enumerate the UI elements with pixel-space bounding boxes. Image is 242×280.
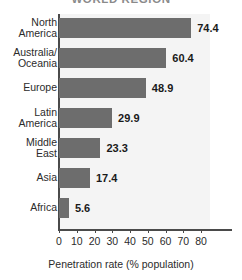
bar-row: 29.9 (59, 108, 234, 128)
x-axis-tick (130, 229, 131, 233)
x-axis-tick (166, 229, 167, 233)
bar-row: 74.4 (59, 18, 234, 38)
x-axis-title: Penetration rate (% population) (0, 258, 242, 270)
bar (59, 198, 69, 218)
category-label: Europe (23, 82, 57, 94)
x-axis-tick (95, 229, 96, 233)
bar (59, 18, 191, 38)
bar-value-label: 60.4 (172, 52, 193, 64)
bar-value-label: 74.4 (197, 22, 218, 34)
bar-row: 5.6 (59, 198, 234, 218)
category-label: Asia (37, 172, 57, 184)
chart-title: WORLD REGION (0, 0, 242, 5)
category-label: Middle East (26, 137, 57, 160)
x-axis-tick-label: 10 (71, 235, 83, 247)
x-axis-tick-label: 0 (56, 235, 62, 247)
bar-chart: WORLD REGION 74.460.448.929.923.317.45.6… (0, 0, 242, 280)
bar-row: 23.3 (59, 138, 234, 158)
bar-value-label: 23.3 (106, 142, 127, 154)
bar (59, 78, 146, 98)
x-axis-tick-label: 50 (142, 235, 154, 247)
bar (59, 48, 166, 68)
bar-value-label: 48.9 (152, 82, 173, 94)
x-axis-tick-label: 40 (124, 235, 136, 247)
bar-value-label: 17.4 (96, 172, 117, 184)
x-axis-tick (201, 229, 202, 233)
category-label: North America (18, 17, 57, 40)
x-axis-tick (148, 229, 149, 233)
bar (59, 108, 112, 128)
x-axis-tick (77, 229, 78, 233)
category-label: Africa (30, 202, 57, 214)
category-label: Latin America (18, 107, 57, 130)
x-axis-tick (59, 229, 60, 233)
bar-row: 60.4 (59, 48, 234, 68)
category-label: Australia/ Oceania (13, 47, 57, 70)
x-axis-tick-label: 80 (195, 235, 207, 247)
x-axis-tick-label: 70 (178, 235, 190, 247)
x-axis-tick (183, 229, 184, 233)
x-axis-tick-label: 30 (106, 235, 118, 247)
x-axis-tick-label: 60 (160, 235, 172, 247)
x-axis-tick-label: 20 (89, 235, 101, 247)
bar-value-label: 5.6 (75, 202, 90, 214)
bar-value-label: 29.9 (118, 112, 139, 124)
x-axis-line (58, 229, 232, 231)
bar (59, 168, 90, 188)
bar-row: 17.4 (59, 168, 234, 188)
bar-row: 48.9 (59, 78, 234, 98)
x-axis-tick (112, 229, 113, 233)
bar (59, 138, 100, 158)
